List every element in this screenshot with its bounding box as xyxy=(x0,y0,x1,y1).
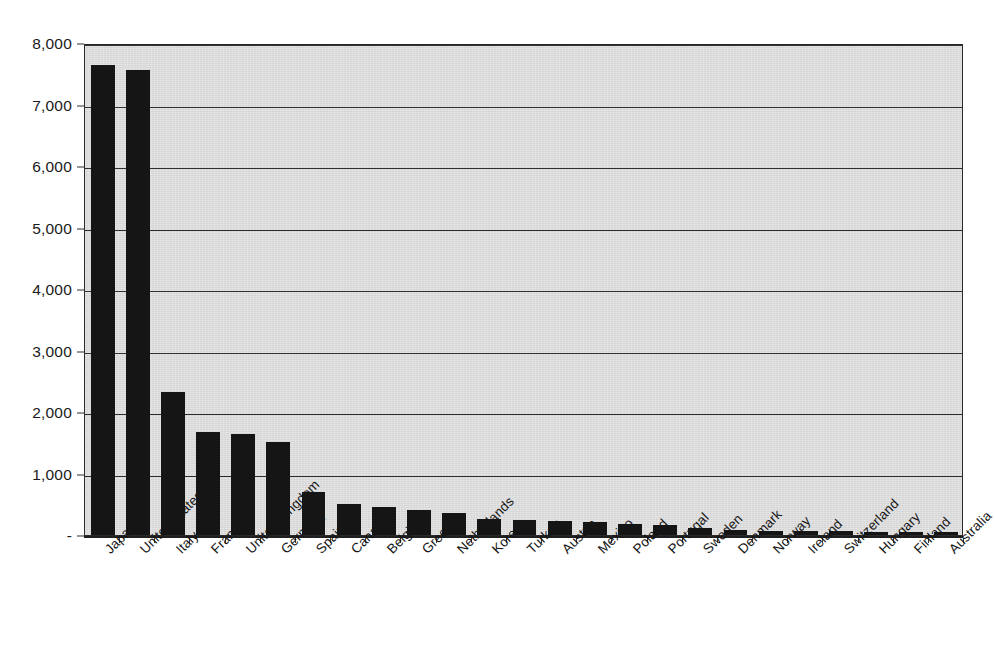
y-axis-tick-mark xyxy=(77,351,84,352)
y-axis-tick-label: 6,000 xyxy=(32,158,72,176)
y-axis-tick-mark xyxy=(77,228,84,229)
x-axis: JapanUnited StatesItalyFranceUnited King… xyxy=(0,538,992,658)
y-axis-tick-label: 5,000 xyxy=(32,220,72,238)
bar[interactable] xyxy=(126,70,150,535)
y-axis-tick-mark xyxy=(77,167,84,168)
y-axis-tick-mark xyxy=(77,105,84,106)
plot-area xyxy=(84,44,963,536)
y-axis-tick-mark xyxy=(77,474,84,475)
y-axis-tick-mark xyxy=(77,290,84,291)
bar[interactable] xyxy=(91,65,115,535)
y-axis-tick-mark xyxy=(77,536,84,537)
bars-layer xyxy=(85,45,962,535)
y-axis-tick-label: 3,000 xyxy=(32,343,72,361)
y-axis-tick-mark xyxy=(77,413,84,414)
y-axis-tick-label: 2,000 xyxy=(32,404,72,422)
bar[interactable] xyxy=(196,432,220,535)
y-axis-tick-label: 4,000 xyxy=(32,281,72,299)
y-axis: -1,0002,0003,0004,0005,0006,0007,0008,00… xyxy=(0,0,84,536)
y-axis-tick-label: 1,000 xyxy=(32,466,72,484)
y-axis-tick-label: 8,000 xyxy=(32,35,72,53)
y-axis-tick-label: 7,000 xyxy=(32,97,72,115)
y-axis-tick-mark xyxy=(77,44,84,45)
